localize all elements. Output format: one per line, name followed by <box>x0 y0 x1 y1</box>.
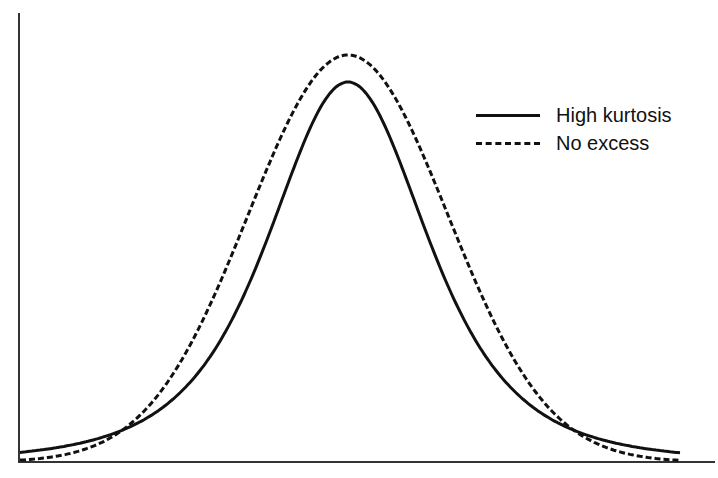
legend-item-no-excess: No excess <box>476 129 672 157</box>
kurtosis-chart <box>0 0 718 478</box>
legend-item-high-kurtosis: High kurtosis <box>476 101 672 129</box>
legend: High kurtosis No excess <box>476 101 672 157</box>
dashed-line-icon <box>476 142 540 145</box>
legend-label: High kurtosis <box>556 104 672 127</box>
legend-label: No excess <box>556 132 649 155</box>
solid-line-icon <box>476 114 540 117</box>
